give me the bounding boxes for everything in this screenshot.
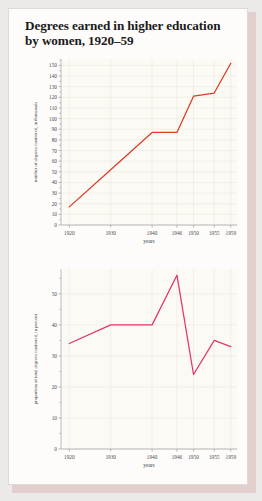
x-axis-tick-label: 1955 (209, 454, 220, 460)
x-axis-title: years (143, 462, 154, 468)
x-axis-tick-label: 1940 (147, 454, 158, 460)
x-axis-tick-label: 1955 (209, 230, 220, 236)
y-axis-tick-label: 50 (52, 291, 58, 297)
y-axis-tick-label: 80 (52, 137, 58, 143)
plot-background (61, 269, 237, 449)
x-axis-tick-label: 1930 (105, 454, 116, 460)
x-axis-tick-label: 1950 (188, 454, 199, 460)
x-axis-tick-label: 1920 (64, 230, 75, 236)
y-axis-tick-label: 30 (52, 190, 58, 196)
y-axis-tick-label: 90 (52, 126, 58, 132)
y-axis-tick-label: 140 (49, 73, 57, 79)
y-axis-tick-label: 40 (52, 179, 58, 185)
y-axis-title: proportion of total degrees conferred, i… (33, 313, 39, 404)
y-axis-tick-label: 110 (49, 105, 57, 111)
y-axis-tick-label: 100 (49, 116, 57, 122)
y-axis-tick-label: 50 (52, 169, 58, 175)
x-axis-tick-label: 1950 (188, 230, 199, 236)
y-axis-tick-label: 40 (52, 322, 58, 328)
page-title: Degrees earned in higher education by wo… (25, 19, 237, 48)
x-axis-title: years (143, 238, 154, 244)
y-axis-tick-label: 0 (54, 446, 57, 452)
chart-proportion-percent-svg: 010203040501920193019401946195019551959y… (9, 261, 248, 483)
y-axis-tick-label: 30 (52, 353, 58, 359)
x-axis-tick-label: 1959 (225, 230, 236, 236)
y-axis-title: number of degrees conferred, in thousand… (33, 102, 39, 182)
chart-degrees-conferred-svg: 0102030405060708090100110120130140150192… (9, 53, 248, 259)
page-title-line-2: by women, 1920–59 (25, 33, 134, 48)
chart-proportion-percent: 010203040501920193019401946195019551959y… (9, 261, 248, 483)
y-axis-tick-label: 20 (52, 384, 58, 390)
x-axis-tick-label: 1940 (147, 230, 158, 236)
x-axis-tick-label: 1920 (64, 454, 75, 460)
chart-degrees-conferred: 0102030405060708090100110120130140150192… (9, 53, 248, 259)
x-axis-tick-label: 1959 (225, 454, 236, 460)
y-axis-tick-label: 120 (49, 94, 57, 100)
y-axis-tick-label: 150 (49, 62, 57, 68)
y-axis-tick-label: 0 (54, 222, 57, 228)
figure-page: Degrees earned in higher education by wo… (8, 8, 248, 485)
y-axis-tick-label: 130 (49, 84, 57, 90)
y-axis-tick-label: 70 (52, 148, 58, 154)
y-axis-tick-label: 60 (52, 158, 58, 164)
x-axis-tick-label: 1930 (105, 230, 116, 236)
y-axis-tick-label: 10 (52, 415, 58, 421)
plot-background (61, 59, 237, 225)
y-axis-tick-label: 10 (52, 211, 58, 217)
y-axis-tick-label: 20 (52, 201, 58, 207)
x-axis-tick-label: 1946 (172, 230, 183, 236)
x-axis-tick-label: 1946 (172, 454, 183, 460)
page-title-line-1: Degrees earned in higher education (25, 18, 220, 33)
